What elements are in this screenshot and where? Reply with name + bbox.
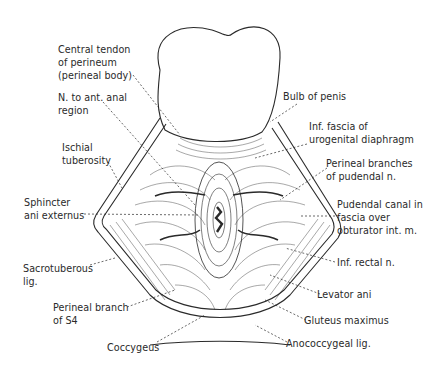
label-central-tendon: Central tendon of perineum (perineal bod… [58, 43, 132, 82]
label-sacrotuberous-lig: Sacrotuberous lig. [23, 262, 93, 288]
label-anococcygeal-lig: Anococcygeal lig. [286, 337, 371, 350]
anatomy-figure: Central tendon of perineum (perineal bod… [0, 0, 434, 383]
buttock-curve [150, 341, 290, 345]
label-levator-ani: Levator ani [317, 288, 371, 301]
label-ischial-tuberosity: Ischial tuberosity [62, 141, 111, 167]
label-gluteus-maximus: Gluteus maximus [304, 314, 389, 327]
label-bulb-of-penis: Bulb of penis [283, 90, 346, 103]
label-perineal-branch-s4: Perineal branch of S4 [53, 301, 129, 327]
label-coccygeus: Coccygeus [107, 341, 159, 354]
label-n-ant-anal-region: N. to ant. anal region [58, 91, 127, 117]
label-inf-rectal-n: Inf. rectal n. [337, 256, 395, 269]
muscle-hatching [110, 138, 330, 310]
label-pudendal-canal: Pudendal canal in fascia over obturator … [337, 198, 423, 237]
scrotum-outline [158, 27, 280, 142]
label-perineal-branches-pudendal: Perineal branches of pudendal n. [326, 157, 413, 183]
label-sphincter-ani-externus: Sphincter ani externus [24, 196, 84, 222]
label-inf-fascia-urogenital: Inf. fascia of urogenital diaphragm [309, 120, 414, 146]
